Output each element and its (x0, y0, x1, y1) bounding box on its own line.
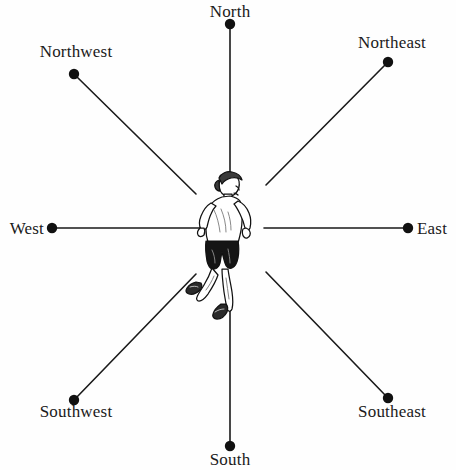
label-north: North (210, 2, 251, 21)
runner-left-hand (198, 228, 205, 237)
dot-northwest (69, 69, 79, 79)
label-southeast: Southeast (358, 402, 426, 421)
compass-diagram: North Northeast East Southeast South Sou… (0, 0, 456, 470)
dot-west (47, 223, 57, 233)
ray-southeast (266, 272, 386, 396)
runner-back-shoe (213, 304, 228, 319)
ray-southwest (76, 274, 196, 398)
label-west: West (10, 219, 44, 238)
runner-shorts (206, 241, 239, 269)
dot-northeast (383, 57, 393, 67)
ray-northeast (266, 64, 386, 185)
label-east: East (417, 219, 447, 238)
runner-ponytail (215, 180, 220, 191)
compass-rays-svg (0, 0, 456, 470)
label-northeast: Northeast (358, 33, 426, 52)
label-northwest: Northwest (40, 42, 113, 61)
dot-east (403, 223, 413, 233)
runner-right-hand (242, 228, 250, 238)
label-southwest: Southwest (40, 402, 113, 421)
label-south: South (210, 450, 251, 469)
ray-northwest (76, 76, 196, 194)
